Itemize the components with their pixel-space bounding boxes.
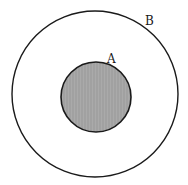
set-a-circle — [61, 62, 131, 132]
set-b-label: B — [145, 14, 154, 28]
venn-diagram: A B — [0, 0, 188, 185]
set-a-label: A — [106, 52, 116, 66]
